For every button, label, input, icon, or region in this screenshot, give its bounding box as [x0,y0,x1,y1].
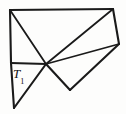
triangle-label-t1: T1 [13,67,24,84]
chord-leftmid-hub [11,63,46,64]
edge-top [10,9,113,10]
edge-notch-to-hub [46,64,70,90]
polygon-diagram [0,0,126,114]
triangle-label-subscript: 1 [20,77,24,86]
figure-container: T1 [0,0,126,114]
edge-left-upper [10,10,11,63]
chord-topleft-hub [10,10,46,64]
edge-top-right [113,9,119,44]
